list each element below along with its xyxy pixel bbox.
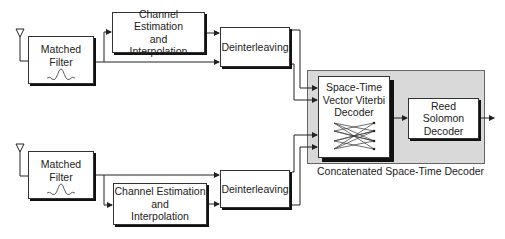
viterbi-label: Space-Time: [326, 81, 382, 94]
matched-filter-label: Filter: [49, 56, 72, 69]
sinc-pulse-icon: [46, 183, 76, 197]
channel-estimation-top: Channel Estimation and Interpolation: [112, 12, 205, 53]
reed-solomon-decoder: Reed Solomon Decoder: [408, 98, 479, 139]
channel-estimation-label: Interpolation: [131, 210, 189, 223]
trellis-icon: [332, 121, 376, 151]
matched-filter-top: Matched Filter: [28, 36, 94, 84]
antenna-icon: [16, 29, 28, 61]
space-time-vector-viterbi-decoder: Space-Time Vector Viterbi Decoder: [318, 76, 390, 158]
reed-solomon-label: Reed Solomon: [409, 100, 478, 125]
channel-estimation-label: Interpolation: [130, 45, 188, 58]
channel-estimation-label: Channel Estimation: [114, 185, 205, 198]
deinterleaving-bottom: Deinterleaving: [220, 170, 290, 208]
deinterleaving-top: Deinterleaving: [220, 27, 290, 67]
viterbi-label: Vector Viterbi: [323, 94, 385, 107]
channel-estimation-label: and: [150, 33, 168, 46]
sinc-pulse-icon: [46, 68, 76, 82]
channel-estimation-label: Channel Estimation: [113, 8, 204, 33]
viterbi-label: Decoder: [334, 106, 374, 119]
antenna-icon: [16, 144, 28, 176]
matched-filter-bottom: Matched Filter: [28, 151, 94, 199]
matched-filter-label: Matched: [41, 43, 81, 56]
deinterleaving-label: Deinterleaving: [221, 41, 288, 54]
matched-filter-label: Filter: [49, 171, 72, 184]
matched-filter-label: Matched: [41, 158, 81, 171]
reed-solomon-label: Decoder: [424, 125, 464, 138]
deinterleaving-label: Deinterleaving: [221, 183, 288, 196]
channel-estimation-bottom: Channel Estimation and Interpolation: [113, 183, 207, 225]
channel-estimation-label: and: [151, 198, 169, 211]
